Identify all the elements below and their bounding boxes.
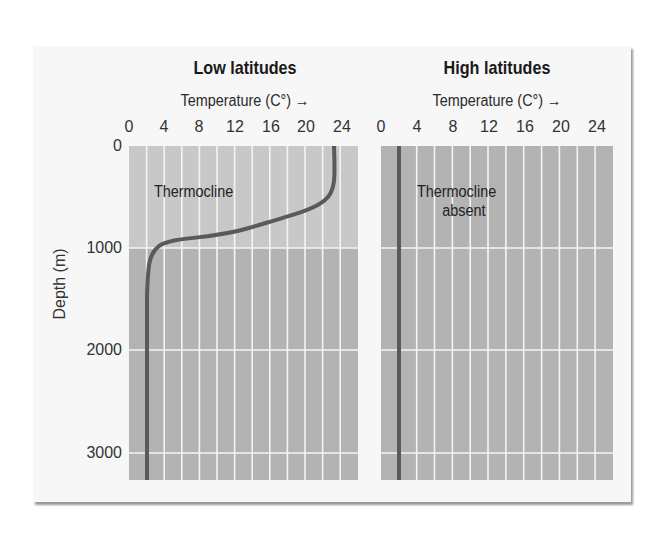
y-axis-label: Depth (m): [51, 244, 69, 324]
left-x-tick: 4: [160, 118, 169, 136]
right-x-tick: 8: [449, 118, 458, 136]
right-panel-title: High latitudes: [425, 57, 570, 79]
left-x-axis-title: Temperature (C°) →: [151, 92, 340, 110]
y-tick: 2000: [62, 341, 122, 359]
left-x-tick: 12: [226, 118, 244, 136]
thermocline-absent-line2: absent: [417, 201, 496, 220]
right-x-tick: 16: [516, 118, 534, 136]
left-x-tick: 16: [262, 118, 280, 136]
thermocline-absent-line1: Thermocline: [417, 182, 496, 201]
left-x-tick: 24: [333, 118, 351, 136]
left-x-tick: 8: [195, 118, 204, 136]
right-x-tick: 20: [552, 118, 570, 136]
left-x-tick: 20: [297, 118, 315, 136]
thermocline-label: Thermocline: [154, 182, 233, 201]
left-x-tick: 0: [125, 118, 134, 136]
right-x-tick: 0: [377, 118, 386, 136]
right-x-axis-title: Temperature (C°) →: [403, 92, 592, 110]
thermocline-absent-label: Thermocline absent: [417, 182, 496, 220]
right-x-tick: 4: [413, 118, 422, 136]
y-tick: 3000: [62, 444, 122, 462]
right-plot-svg: [381, 146, 613, 480]
y-tick: 0: [62, 137, 122, 155]
y-tick: 1000: [62, 239, 122, 257]
left-panel-title: Low latitudes: [177, 57, 313, 79]
right-x-tick: 24: [588, 118, 606, 136]
right-x-tick: 12: [480, 118, 498, 136]
right-plot-area: [381, 146, 613, 480]
